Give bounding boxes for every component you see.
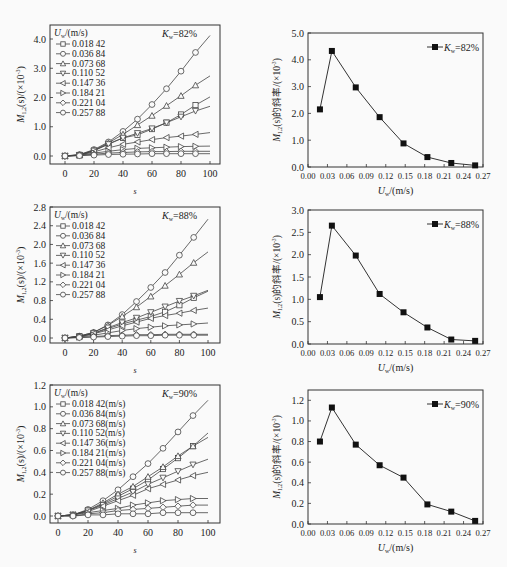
filled-square-marker-icon — [377, 462, 383, 468]
diamond-marker-icon — [60, 100, 66, 106]
x-tick-label: 0.12 — [378, 348, 393, 358]
legend-item: 0.184 21 — [72, 270, 106, 280]
x-tick-label: 0.09 — [359, 528, 374, 538]
filled-square-marker-icon — [353, 442, 359, 448]
x-tick-label: 60 — [143, 527, 153, 538]
y-tick-label: 1.0 — [292, 294, 305, 305]
x-tick-label: 60 — [146, 347, 156, 358]
filled-square-marker-icon — [329, 48, 335, 54]
circle-marker-icon — [193, 151, 199, 157]
filled-square-marker-icon — [472, 162, 478, 168]
series-slope — [317, 405, 478, 524]
circle-marker-icon — [61, 51, 66, 56]
circle-marker-icon — [191, 235, 197, 241]
y-tick-label: 1.2 — [292, 395, 305, 406]
x-tick-label: 80 — [173, 527, 183, 538]
x-tick-label: 0.18 — [417, 348, 432, 358]
y-axis-label: M1,2(s)的斜率/(×10-3) — [271, 235, 283, 320]
tri-left-marker-icon — [178, 133, 184, 139]
x-tick-label: 0 — [56, 527, 61, 538]
circle-marker-icon — [190, 510, 196, 516]
tri-left-marker-icon — [60, 441, 65, 446]
circle-marker-icon — [105, 334, 111, 340]
y-tick-label: 0.8 — [34, 295, 47, 306]
y-tick-label: 0.8 — [34, 423, 47, 434]
x-tick-label: 80 — [176, 168, 186, 179]
y-tick-label: 0.5 — [292, 316, 305, 327]
circle-marker-icon — [193, 50, 199, 56]
y-tick-label: 2.0 — [292, 249, 305, 260]
diamond-marker-icon — [60, 282, 66, 288]
x-tick-label: 20 — [89, 347, 99, 358]
filled-square-marker-icon — [377, 291, 383, 297]
filled-square-marker-icon — [329, 405, 335, 411]
circle-marker-icon — [106, 152, 112, 158]
x-tick-label: 100 — [203, 168, 218, 179]
x-tick-label: 0.03 — [320, 348, 335, 358]
y-tick-label: 2.8 — [34, 202, 47, 213]
y-tick-label: 3.0 — [292, 205, 305, 216]
plot-area: 0204060801000.00.20.40.60.81.01.2sM1,2(s… — [0, 370, 250, 567]
circle-marker-icon — [160, 445, 166, 451]
legend-item: 0.257 88(m/s) — [72, 468, 125, 479]
y-axis-label: M1,2(s)/(×10-3) — [15, 426, 27, 484]
legend-title: Uw/(m/s) — [54, 28, 88, 39]
circle-marker-icon — [149, 151, 155, 157]
y-tick-label: 2.0 — [292, 108, 305, 119]
x-tick-label: 0.09 — [359, 348, 374, 358]
tri-left-marker-icon — [60, 263, 65, 268]
y-tick-label: 2.0 — [34, 239, 47, 250]
circle-marker-icon — [175, 429, 181, 435]
y-tick-label: 1.2 — [34, 380, 47, 391]
filled-square-marker-icon — [472, 338, 478, 344]
filled-square-marker-icon — [317, 106, 323, 112]
series-slope — [317, 48, 478, 168]
y-tick-label: 1.2 — [34, 276, 47, 287]
x-tick-label: 0.09 — [359, 171, 374, 181]
circle-marker-icon — [162, 270, 168, 276]
tri-up-marker-icon — [163, 103, 169, 109]
x-tick-label: 0.24 — [456, 528, 472, 538]
x-tick-label: 0.24 — [456, 348, 472, 358]
tri-down-marker-icon — [190, 462, 196, 468]
filled-square-marker-icon — [317, 294, 323, 300]
tri-up-marker-icon — [134, 122, 140, 128]
plot-area: 0.000.030.060.090.120.150.180.210.240.27… — [250, 370, 507, 567]
tri-left-marker-icon — [191, 307, 197, 313]
chart-kw82-slope: 0.000.030.060.090.120.150.180.210.240.27… — [250, 0, 507, 190]
x-tick-label: 0.06 — [339, 348, 355, 358]
legend-item: 0.036 84 — [72, 231, 106, 241]
x-tick-label: 20 — [83, 527, 93, 538]
tri-right-marker-icon — [160, 498, 166, 504]
filled-square-marker-icon — [448, 509, 454, 515]
x-tick-label: 0.03 — [320, 171, 335, 181]
x-tick-label: 0.21 — [437, 348, 452, 358]
circle-marker-icon — [55, 513, 61, 519]
y-tick-label: 0.2 — [34, 489, 47, 500]
filled-square-marker-icon — [424, 154, 430, 160]
legend-item: 0.110 52 — [72, 250, 105, 260]
x-tick-label: 60 — [147, 168, 157, 179]
x-tick-label: 40 — [113, 527, 123, 538]
circle-marker-icon — [130, 474, 136, 480]
y-tick-label: 1.0 — [34, 121, 47, 132]
tri-up-marker-icon — [178, 93, 184, 99]
filled-square-marker-icon — [401, 475, 407, 481]
y-tick-label: 2.0 — [34, 92, 47, 103]
filled-square-marker-icon — [432, 401, 438, 407]
kw-annotation: Kw=90% — [161, 388, 197, 400]
filled-square-marker-icon — [401, 309, 407, 315]
circle-marker-icon — [77, 153, 83, 159]
x-tick-label: 0.12 — [378, 528, 393, 538]
y-tick-label: 0.0 — [34, 333, 47, 344]
circle-marker-icon — [148, 285, 154, 291]
square-marker-icon — [61, 42, 65, 46]
y-tick-label: 4.0 — [292, 54, 305, 65]
tri-up-marker-icon — [162, 283, 168, 289]
tri-up-marker-icon — [133, 304, 139, 310]
filled-square-marker-icon — [329, 223, 335, 229]
x-tick-label: 100 — [201, 347, 216, 358]
tri-left-marker-icon — [176, 310, 182, 316]
x-tick-label: 0.06 — [339, 528, 355, 538]
circle-marker-icon — [164, 86, 170, 92]
